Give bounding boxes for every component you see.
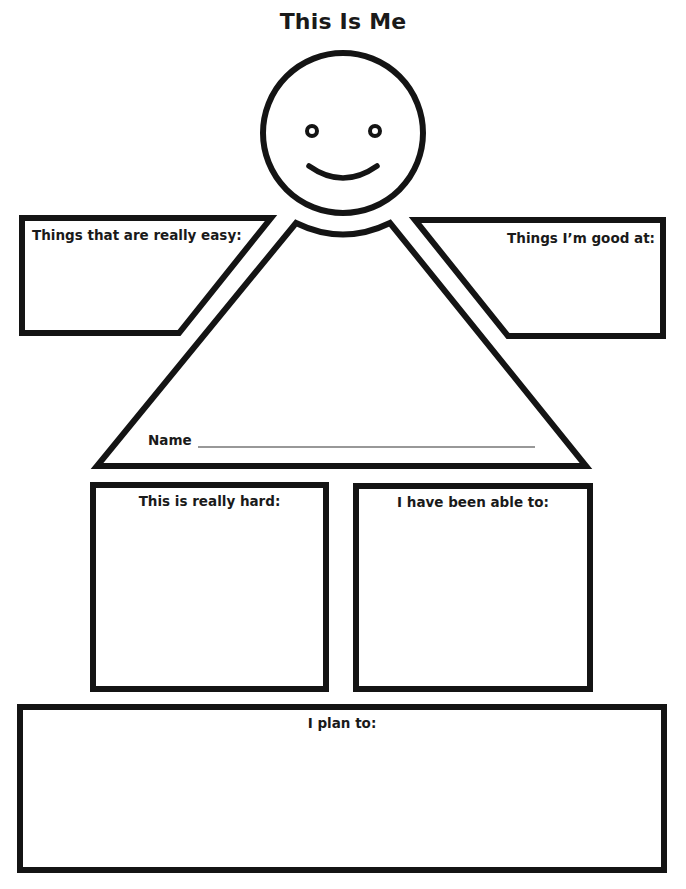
plan-label: I plan to: [20, 715, 664, 731]
hard-field[interactable] [100, 516, 324, 686]
name-field[interactable] [200, 430, 538, 448]
hard-label: This is really hard: [93, 493, 326, 509]
page-title: This Is Me [0, 9, 686, 34]
name-label: Name [148, 432, 192, 448]
easy-field[interactable] [30, 250, 224, 330]
able-to-field[interactable] [363, 517, 587, 686]
smiley-face-icon [263, 53, 423, 213]
good-at-label: Things I’m good at: [507, 230, 655, 246]
easy-label: Things that are really easy: [32, 227, 242, 243]
plan-field[interactable] [28, 738, 660, 867]
good-at-field[interactable] [470, 252, 660, 334]
able-to-label: I have been able to: [356, 494, 590, 510]
